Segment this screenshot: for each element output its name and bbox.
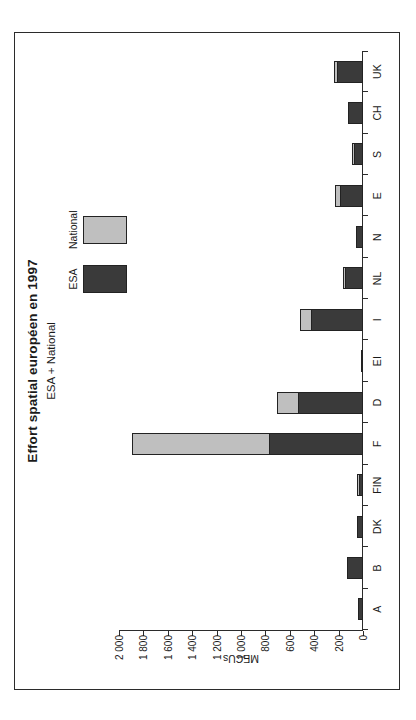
category-slot: CH xyxy=(363,92,393,133)
bar-slot[interactable] xyxy=(119,216,363,257)
category-tick-mark xyxy=(363,257,368,258)
category-tick-mark xyxy=(363,174,368,175)
rotated-chart-container: Effort spatial européen en 1997 ESA + Na… xyxy=(15,33,399,689)
bar-segment-esa[interactable] xyxy=(340,185,363,207)
bar-stack-e[interactable] xyxy=(335,185,363,207)
bar-slot[interactable] xyxy=(119,589,363,630)
bar-slot[interactable] xyxy=(119,506,363,547)
bar-segment-esa[interactable] xyxy=(347,557,363,579)
bar-slot[interactable] xyxy=(119,258,363,299)
category-label-nl: NL xyxy=(371,272,383,285)
bar-segment-esa[interactable] xyxy=(356,226,363,248)
category-slot: E xyxy=(363,175,393,216)
category-tick-mark xyxy=(363,546,368,547)
bar-slot[interactable] xyxy=(119,92,363,133)
value-tick-label: 600 xyxy=(284,635,295,652)
value-axis-title: MECUs xyxy=(223,653,259,665)
category-tick-mark xyxy=(363,381,368,382)
category-slot: F xyxy=(363,423,393,464)
bar-stack-b[interactable] xyxy=(347,557,363,579)
category-label-e: E xyxy=(371,192,383,199)
category-tick-mark xyxy=(363,215,368,216)
bar-stack-uk[interactable] xyxy=(334,61,363,83)
value-tick-label: 200 xyxy=(333,635,344,652)
category-tick-mark xyxy=(363,339,368,340)
bar-segment-esa[interactable] xyxy=(269,433,363,455)
chart-title: Effort spatial européen en 1997 xyxy=(25,33,42,689)
value-tick-label: 1 400 xyxy=(187,635,198,660)
category-slot: DK xyxy=(363,506,393,547)
category-label-fin: FIN xyxy=(371,477,383,494)
bar-slot[interactable] xyxy=(119,547,363,588)
bar-slot[interactable] xyxy=(119,340,363,381)
category-label-f: F xyxy=(371,441,383,447)
bar-stack-ch[interactable] xyxy=(348,102,363,124)
chart-legend: ESA National xyxy=(67,210,127,293)
legend-entry-national: National xyxy=(67,210,127,249)
legend-entry-esa: ESA xyxy=(67,265,127,293)
category-label-ei: EI xyxy=(371,356,383,366)
category-slot: I xyxy=(363,299,393,340)
category-slot: FIN xyxy=(363,465,393,506)
bar-stack-d[interactable] xyxy=(277,392,363,414)
plot-area: 02004006008001 0001 2001 4001 6001 8002 … xyxy=(119,51,363,631)
category-label-s: S xyxy=(371,151,383,158)
bar-segment-esa[interactable] xyxy=(345,267,363,289)
bar-stack-n[interactable] xyxy=(356,226,363,248)
category-label-n: N xyxy=(371,233,383,241)
category-label-uk: UK xyxy=(371,64,383,79)
category-tick-mark xyxy=(363,588,368,589)
category-slot: A xyxy=(363,589,393,630)
value-tick-label: 400 xyxy=(309,635,320,652)
bar-slot[interactable] xyxy=(119,465,363,506)
bar-segment-esa[interactable] xyxy=(311,309,363,331)
bar-stack-i[interactable] xyxy=(300,309,363,331)
figure-page: Effort spatial européen en 1997 ESA + Na… xyxy=(0,0,416,720)
bar-stack-f[interactable] xyxy=(132,433,363,455)
category-tick-mark-end xyxy=(363,51,368,52)
category-slot: D xyxy=(363,382,393,423)
bar-segment-national[interactable] xyxy=(132,433,269,455)
category-slot: B xyxy=(363,547,393,588)
bar-slot[interactable] xyxy=(119,423,363,464)
category-slot: EI xyxy=(363,340,393,381)
bar-segment-esa[interactable] xyxy=(337,61,363,83)
legend-label-esa: ESA xyxy=(67,269,79,290)
category-slot: S xyxy=(363,134,393,175)
bar-slot[interactable] xyxy=(119,299,363,340)
bar-slot[interactable] xyxy=(119,51,363,92)
bar-slot[interactable] xyxy=(119,134,363,175)
category-slot: N xyxy=(363,216,393,257)
bar-segment-esa[interactable] xyxy=(354,143,363,165)
category-label-ch: CH xyxy=(371,105,383,120)
value-tick-label: 0 xyxy=(358,635,369,641)
category-tick-mark xyxy=(363,629,368,630)
category-tick-mark xyxy=(363,422,368,423)
category-tick-mark xyxy=(363,133,368,134)
bar-segment-national[interactable] xyxy=(300,309,311,331)
bar-segment-esa[interactable] xyxy=(348,102,363,124)
value-tick-label: 1 600 xyxy=(162,635,173,660)
bar-stack-nl[interactable] xyxy=(343,267,363,289)
category-tick-mark xyxy=(363,464,368,465)
bar-slot[interactable] xyxy=(119,382,363,423)
category-label-i: I xyxy=(371,318,383,321)
category-label-b: B xyxy=(371,564,383,571)
title-block: Effort spatial européen en 1997 ESA + Na… xyxy=(25,33,59,689)
category-tick-mark xyxy=(363,91,368,92)
value-tick-label: 1 200 xyxy=(211,635,222,660)
figure-frame: Effort spatial européen en 1997 ESA + Na… xyxy=(14,32,400,690)
category-label-dk: DK xyxy=(371,519,383,534)
bar-segment-esa[interactable] xyxy=(298,392,363,414)
category-tick-mark xyxy=(363,298,368,299)
category-label-a: A xyxy=(371,606,383,613)
category-slot: NL xyxy=(363,258,393,299)
bar-stack-s[interactable] xyxy=(352,143,363,165)
legend-label-national: National xyxy=(67,210,79,249)
bar-segment-national[interactable] xyxy=(277,392,298,414)
bar-slot[interactable] xyxy=(119,175,363,216)
chart-subtitle: ESA + National xyxy=(45,33,59,689)
value-tick-label: 800 xyxy=(260,635,271,652)
bar-group xyxy=(119,51,363,630)
category-slot: UK xyxy=(363,51,393,92)
